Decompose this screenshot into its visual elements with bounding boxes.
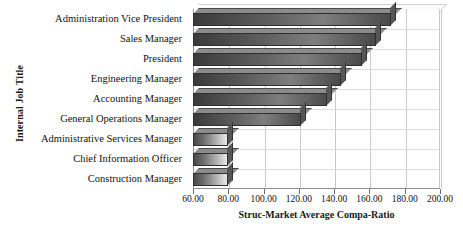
bar-front-face <box>193 53 362 66</box>
bar[interactable] <box>193 73 341 86</box>
bar-row <box>193 9 440 29</box>
bar-front-face <box>193 13 391 26</box>
bar[interactable] <box>193 13 391 26</box>
category-label: Administrative Services Manager <box>16 129 186 149</box>
category-label: Accounting Manager <box>16 89 186 109</box>
bar[interactable] <box>193 33 376 46</box>
bar-front-face <box>193 33 376 46</box>
x-axis-tick-label: 120.00 <box>286 194 312 204</box>
category-label: Construction Manager <box>16 169 186 189</box>
bar-row <box>193 69 440 89</box>
bar[interactable] <box>193 113 301 126</box>
bar-chart: Internal Job Title Administration Vice P… <box>0 0 463 236</box>
category-label: Administration Vice President <box>16 9 186 29</box>
plot-area <box>193 9 440 189</box>
bar-series <box>193 9 440 189</box>
grid-line-vertical <box>441 9 442 188</box>
x-axis-tick-label: 200.00 <box>427 194 453 204</box>
bar-row <box>193 169 440 189</box>
bar-front-face <box>193 113 301 126</box>
category-axis-labels: Administration Vice PresidentSales Manag… <box>16 9 186 189</box>
bar-front-face <box>193 133 228 146</box>
bar-front-face <box>193 153 228 166</box>
x-axis-tick-labels: 60.0080.00100.00120.00140.00160.00180.00… <box>193 194 440 208</box>
bar[interactable] <box>193 133 228 146</box>
bar-front-face <box>193 173 228 186</box>
category-label: General Operations Manager <box>16 109 186 129</box>
x-axis-tick-label: 80.00 <box>218 194 239 204</box>
x-axis-tick-label: 180.00 <box>392 194 418 204</box>
category-label: Engineering Manager <box>16 69 186 89</box>
category-label: Chief Information Officer <box>16 149 186 169</box>
x-axis-tick-label: 100.00 <box>251 194 277 204</box>
bar-front-face <box>193 73 341 86</box>
x-axis-tick-label: 60.00 <box>182 194 203 204</box>
x-axis-title: Struc-Market Average Compa-Ratio <box>193 209 440 220</box>
category-label: Sales Manager <box>16 29 186 49</box>
bar-row <box>193 29 440 49</box>
category-label: President <box>16 49 186 69</box>
bar[interactable] <box>193 53 362 66</box>
bar-front-face <box>193 93 327 106</box>
bar[interactable] <box>193 173 228 186</box>
bar[interactable] <box>193 153 228 166</box>
x-axis-tick-label: 140.00 <box>321 194 347 204</box>
x-axis-tick-label: 160.00 <box>356 194 382 204</box>
bar-row <box>193 49 440 69</box>
bar[interactable] <box>193 93 327 106</box>
bar-row <box>193 89 440 109</box>
